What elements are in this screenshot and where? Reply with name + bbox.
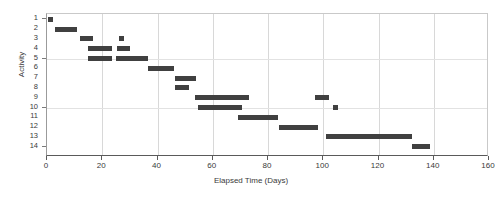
x-tick-label: 100 — [302, 161, 342, 170]
y-tick-label: 1 — [18, 14, 38, 22]
gantt-bar — [80, 36, 92, 41]
gridline-horizontal — [47, 59, 487, 60]
x-tick — [157, 156, 158, 160]
y-tick-label: 6 — [18, 63, 38, 71]
y-tick-label: 7 — [18, 73, 38, 81]
gridline-vertical — [158, 14, 159, 155]
gridline-vertical — [323, 14, 324, 155]
x-tick-label: 140 — [413, 161, 453, 170]
y-tick-label: 8 — [18, 83, 38, 91]
gantt-bar — [198, 105, 242, 110]
y-tick — [42, 18, 46, 19]
gantt-bar — [175, 85, 189, 90]
x-tick — [267, 156, 268, 160]
gantt-bar — [195, 95, 249, 100]
gantt-bar — [412, 144, 430, 149]
gridline-vertical — [268, 14, 269, 155]
y-tick-label: 4 — [18, 44, 38, 52]
y-tick-label: 11 — [18, 112, 38, 120]
gantt-bar — [238, 115, 278, 120]
gridline-vertical — [434, 14, 435, 155]
gantt-bar — [148, 66, 174, 71]
plot-area — [46, 13, 488, 156]
y-tick — [42, 107, 46, 108]
y-tick — [42, 58, 46, 59]
x-tick — [322, 156, 323, 160]
x-axis-title: Elapsed Time (Days) — [0, 176, 502, 185]
x-tick-label: 20 — [81, 161, 121, 170]
gantt-bar — [48, 17, 52, 22]
gantt-bar — [119, 36, 125, 41]
gridline-horizontal — [47, 108, 487, 109]
y-tick-label: 3 — [18, 34, 38, 42]
y-tick-label: 9 — [18, 93, 38, 101]
y-tick-label: 5 — [18, 54, 38, 62]
gantt-bar — [279, 125, 318, 130]
gantt-bar — [175, 76, 196, 81]
gantt-chart: Activity 020406080100120140160 123456789… — [0, 0, 502, 202]
gantt-bar — [55, 27, 77, 32]
x-tick — [101, 156, 102, 160]
y-tick-label: 12 — [18, 122, 38, 130]
gantt-bar — [88, 46, 111, 51]
x-tick — [212, 156, 213, 160]
gantt-bar — [116, 56, 148, 61]
x-tick-label: 60 — [192, 161, 232, 170]
y-tick-label: 2 — [18, 24, 38, 32]
y-tick-label: 10 — [18, 103, 38, 111]
y-tick-label: 13 — [18, 132, 38, 140]
gridline-vertical — [102, 14, 103, 155]
gantt-bar — [117, 46, 129, 51]
gantt-bar — [333, 105, 339, 110]
x-tick-label: 120 — [358, 161, 398, 170]
y-tick — [42, 146, 46, 147]
x-tick-label: 0 — [26, 161, 66, 170]
gantt-bar — [315, 95, 329, 100]
x-tick — [46, 156, 47, 160]
gantt-bar — [88, 56, 111, 61]
x-tick — [433, 156, 434, 160]
gantt-bar — [326, 134, 412, 139]
x-tick — [378, 156, 379, 160]
gridline-vertical — [213, 14, 214, 155]
x-tick — [488, 156, 489, 160]
y-tick-label: 14 — [18, 142, 38, 150]
x-tick-label: 160 — [468, 161, 502, 170]
x-tick-label: 40 — [137, 161, 177, 170]
x-tick-label: 80 — [247, 161, 287, 170]
